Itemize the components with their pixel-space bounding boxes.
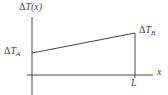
point-a-label: ΔTA [4, 45, 20, 56]
subscript-a: A [16, 50, 20, 58]
subscript-b: B [151, 29, 155, 37]
y-axis-label: ΔT(x) [19, 1, 42, 12]
diagram-canvas [0, 0, 168, 95]
point-b-label: ΔTB [139, 24, 155, 35]
temperature-profile-line [32, 33, 135, 53]
temperature-profile-diagram: ΔT(x) ΔTA ΔTB L x [0, 0, 168, 95]
length-label: L [131, 77, 137, 88]
y-axis-function: T(x) [25, 1, 42, 12]
x-axis-label: x [157, 66, 161, 77]
